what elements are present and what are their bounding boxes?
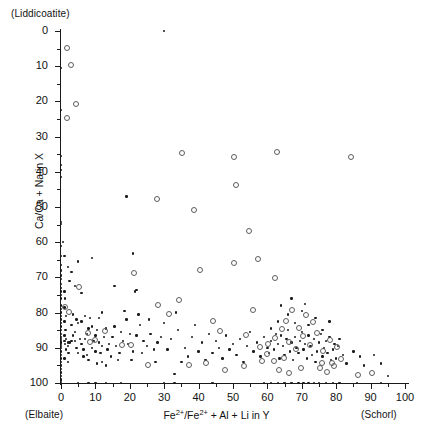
data-point [175, 311, 177, 313]
y-ticklabel-80: 20 [2, 94, 48, 106]
x-minor-tick-55 [250, 383, 251, 387]
data-point [156, 341, 158, 343]
data-point [338, 356, 344, 362]
data-point [314, 361, 316, 363]
plot-data-area [61, 31, 405, 383]
data-point [77, 322, 79, 324]
y-ticklabel-40: 60 [2, 235, 48, 247]
data-point [327, 337, 333, 343]
data-point [60, 357, 62, 359]
data-point [92, 337, 98, 343]
data-point [197, 267, 203, 273]
data-point [250, 307, 256, 313]
data-point [297, 352, 299, 354]
data-point [70, 271, 72, 273]
x-minor-tick-85 [353, 383, 354, 387]
data-point [64, 115, 70, 121]
data-point [72, 313, 74, 315]
data-point [320, 333, 322, 335]
data-point [135, 289, 137, 291]
data-point [289, 350, 291, 352]
data-point [60, 368, 62, 370]
data-point [304, 303, 306, 305]
data-point [74, 331, 76, 333]
data-point [120, 331, 122, 333]
data-point [264, 351, 270, 357]
data-point [265, 341, 271, 347]
data-point [79, 338, 81, 340]
data-point [63, 357, 65, 359]
data-point [70, 340, 72, 342]
data-point [246, 345, 248, 347]
data-point [359, 355, 361, 357]
data-point [75, 347, 77, 349]
data-point [123, 310, 125, 312]
data-point [176, 297, 182, 303]
data-point [149, 333, 151, 335]
data-point [110, 355, 112, 357]
data-point [166, 311, 172, 317]
data-point [324, 369, 330, 375]
data-point [225, 334, 227, 336]
data-point [233, 182, 239, 188]
data-point [96, 329, 98, 331]
data-point [139, 324, 141, 326]
data-point [235, 354, 237, 356]
data-point [76, 284, 82, 290]
data-point [184, 347, 186, 349]
data-point [338, 338, 340, 340]
data-point [64, 45, 70, 51]
data-point [321, 355, 323, 357]
data-point [294, 322, 296, 324]
data-point [307, 334, 309, 336]
data-point [352, 350, 354, 352]
data-point [272, 275, 278, 281]
data-point [60, 333, 62, 335]
data-point [60, 311, 62, 313]
data-point [170, 338, 172, 340]
data-point [80, 292, 82, 294]
data-point [91, 257, 93, 259]
data-point [103, 336, 105, 338]
data-point [130, 359, 132, 361]
data-point [74, 340, 76, 342]
data-point [311, 354, 313, 356]
data-point [67, 266, 69, 268]
data-point [132, 350, 134, 352]
data-point [125, 195, 127, 197]
data-point [191, 207, 197, 213]
data-point [86, 354, 88, 356]
data-point [208, 333, 210, 335]
data-point [60, 315, 62, 317]
data-point [280, 334, 282, 336]
data-point [318, 341, 320, 343]
data-point [163, 322, 165, 324]
data-point [145, 362, 151, 368]
data-point [266, 347, 268, 349]
y-ticklabel-10: 90 [2, 341, 48, 353]
data-point [60, 318, 62, 320]
data-point [231, 154, 237, 160]
data-point [85, 330, 91, 336]
data-point [301, 310, 303, 312]
data-point [299, 340, 301, 342]
data-point [77, 260, 79, 262]
y-ticklabel-0: 100 [2, 376, 48, 388]
data-point [249, 331, 251, 333]
x-axis-title: Fe2+/Fe2+ + Al + Li in Y [0, 409, 433, 421]
data-point [211, 382, 213, 384]
data-point [125, 318, 127, 320]
data-point [60, 269, 62, 271]
y-ticklabel-90: 10 [2, 59, 48, 71]
data-point [113, 285, 115, 287]
data-point [96, 362, 98, 364]
data-point [60, 245, 62, 247]
data-point [307, 382, 309, 384]
data-point [77, 352, 79, 354]
data-point [60, 322, 62, 324]
data-point [62, 241, 64, 243]
data-point [270, 327, 272, 329]
data-point [131, 270, 137, 276]
data-point [63, 255, 65, 257]
data-point [326, 352, 328, 354]
